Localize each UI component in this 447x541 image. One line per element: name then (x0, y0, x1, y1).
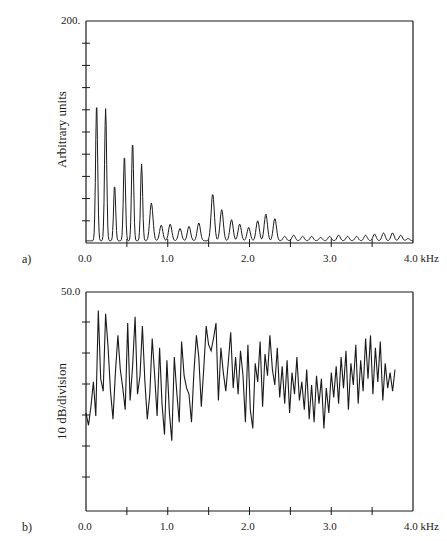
chart-b-xtick-1: 1.0 (160, 520, 174, 532)
chart-a-spectrum-line (86, 108, 413, 241)
chart-a-xtick-1: 1.0 (160, 252, 174, 264)
chart-a-frame (82, 21, 413, 247)
chart-b-ymax-label: 50.0 (61, 285, 80, 297)
panel-b-label: b) (22, 520, 32, 535)
chart-a-ylabel: Arbitrary units (54, 91, 70, 168)
chart-b-spectrum-line (86, 311, 395, 441)
panel-a-label: a) (22, 252, 31, 267)
chart-a-xtick-0: 0.0 (78, 252, 92, 264)
chart-b-frame (82, 292, 413, 515)
chart-b-xtick-3: 3.0 (323, 520, 337, 532)
chart-a-xtick-4: 4.0 kHz (404, 252, 439, 264)
chart-b-xtick-4: 4.0 kHz (404, 520, 439, 532)
chart-b-xtick-0: 0.0 (78, 520, 92, 532)
chart-b-ylabel: 10 dB/division (54, 363, 70, 440)
chart-a-ymax-label: 200. (61, 14, 80, 26)
chart-a-xtick-3: 3.0 (323, 252, 337, 264)
chart-b-xtick-2: 2.0 (241, 520, 255, 532)
chart-a-xtick-2: 2.0 (241, 252, 255, 264)
spectrum-figure (0, 0, 447, 541)
